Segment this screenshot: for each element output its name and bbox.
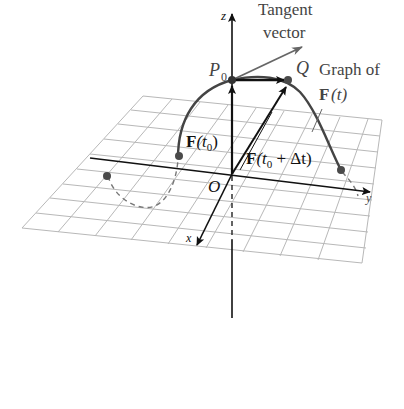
label-graph-t: (t) [331,85,347,104]
label-P0-sub: 0 [221,70,227,84]
label-Q: Q [296,58,309,78]
point-curve-right [337,166,345,174]
label-F-t0: F(t0) [186,132,218,153]
label-tangent-line2: vector [263,23,306,42]
label-F-t0-plus-dt: F(t0 + Δt) [246,149,312,170]
tangent-vector [232,47,302,80]
label-x-axis: x [185,231,192,245]
point-Q [284,76,292,84]
xy-grid-plane [22,96,382,263]
label-P0: P [208,60,220,80]
label-z-axis: z [220,8,226,23]
label-graph-line1: Graph of [319,60,380,79]
label-y-axis: y [365,191,372,205]
label-tangent-line1: Tangent [258,0,313,19]
label-origin: O [208,177,220,196]
point-P0 [228,76,236,84]
point-curve-far-left [103,172,111,180]
point-curve-left [175,152,183,160]
label-graph-F: F [319,85,329,104]
vector-function-diagram: z Tangent vector P 0 Q Graph of F (t) F(… [0,0,404,409]
